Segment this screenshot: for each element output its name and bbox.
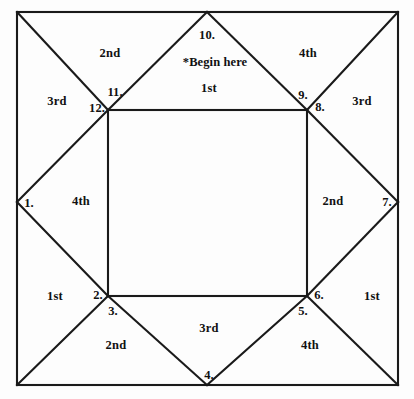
ordinal-label: 2nd bbox=[106, 339, 127, 352]
point-number-label: 6. bbox=[314, 289, 324, 302]
diagram-canvas: 2nd4th3rd1st3rd4th2nd1st1st3rd2nd4th1.2.… bbox=[0, 0, 414, 399]
diagonal-bottom-right bbox=[307, 296, 398, 385]
star-right-lower-leg bbox=[307, 202, 398, 296]
ordinal-label: 3rd bbox=[199, 322, 218, 335]
ordinal-label: 3rd bbox=[47, 95, 66, 108]
point-number-label: 5. bbox=[298, 305, 308, 318]
ordinal-label: 3rd bbox=[352, 95, 371, 108]
inner-square bbox=[108, 110, 307, 296]
point-number-label: 1. bbox=[24, 197, 34, 210]
point-number-label: 12. bbox=[89, 102, 105, 115]
point-number-label: 7. bbox=[382, 196, 392, 209]
point-number-label: 11. bbox=[107, 86, 122, 99]
begin-here-note: *Begin here bbox=[183, 56, 247, 69]
star-left-upper-leg bbox=[17, 110, 108, 202]
ordinal-label: 4th bbox=[301, 339, 319, 352]
ordinal-label: 1st bbox=[364, 290, 380, 303]
star-right-upper-leg bbox=[307, 110, 398, 202]
diagonal-bottom-left bbox=[17, 296, 108, 385]
point-number-label: 9. bbox=[298, 89, 308, 102]
star-bottom-right-leg bbox=[207, 296, 307, 385]
point-number-label: 3. bbox=[108, 305, 118, 318]
ordinal-label: 1st bbox=[47, 290, 63, 303]
ordinal-label: 4th bbox=[72, 195, 90, 208]
ordinal-label: 4th bbox=[299, 47, 317, 60]
ordinal-label: 1st bbox=[201, 82, 217, 95]
point-number-label: 4. bbox=[204, 369, 214, 382]
ordinal-label: 2nd bbox=[100, 47, 121, 60]
star-left-lower-leg bbox=[17, 202, 108, 296]
ordinal-label: 2nd bbox=[323, 195, 344, 208]
point-number-label: 10. bbox=[199, 29, 215, 42]
point-number-label: 8. bbox=[315, 101, 325, 114]
point-number-label: 2. bbox=[93, 289, 103, 302]
